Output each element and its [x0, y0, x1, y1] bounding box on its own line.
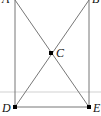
geometry-diagram: A B C D E [0, 0, 101, 116]
label-B: B [92, 0, 100, 6]
point-D-marker [13, 105, 17, 109]
label-E: E [92, 101, 101, 115]
point-E-marker [87, 105, 91, 109]
point-C-marker [49, 51, 53, 55]
label-A: A [1, 0, 10, 6]
label-D: D [1, 101, 11, 115]
label-C: C [56, 46, 65, 60]
